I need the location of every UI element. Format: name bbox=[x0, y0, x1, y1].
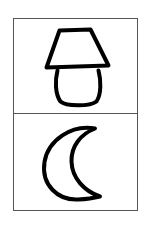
panel-lamp[interactable] bbox=[14, 19, 137, 112]
card-canvas bbox=[0, 0, 150, 229]
panel-moon[interactable] bbox=[14, 114, 137, 210]
pictogram-card bbox=[0, 0, 150, 229]
